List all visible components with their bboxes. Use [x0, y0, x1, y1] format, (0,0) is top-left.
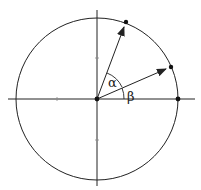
origin-point	[95, 97, 100, 102]
beta-arc	[122, 88, 124, 99]
x-intercept-point	[176, 97, 181, 102]
alpha-tip-point	[124, 20, 128, 24]
unit-circle-diagram: α β	[0, 0, 201, 190]
beta-tip-point	[169, 65, 173, 69]
alpha-label: α	[108, 75, 117, 90]
beta-label: β	[127, 89, 135, 104]
